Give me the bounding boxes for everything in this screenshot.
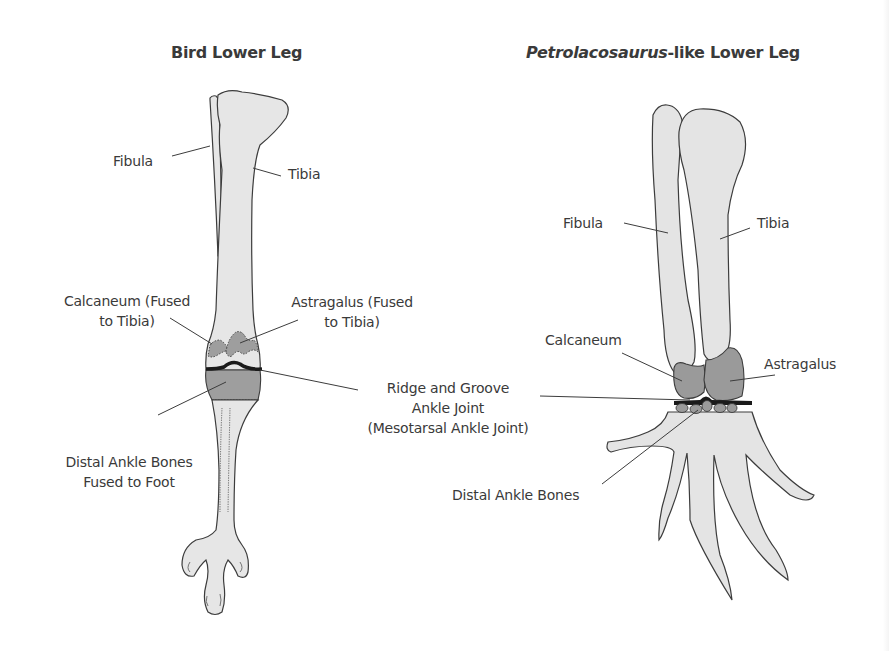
bird-calcaneum-label-line2: to Tibia) xyxy=(52,311,202,331)
petrolacosaurus-leg-illustration xyxy=(607,105,814,600)
bird-astragalus-label-line1: Astragalus (Fused xyxy=(277,292,427,312)
bird-calcaneum-label-line1: Calcaneum (Fused xyxy=(52,291,202,311)
bird-astragalus-label: Astragalus (Fused to Tibia) xyxy=(277,292,427,332)
bird-calcaneum-label: Calcaneum (Fused to Tibia) xyxy=(52,291,202,331)
bird-distal-label-line2: Fused to Foot xyxy=(54,472,204,492)
joint-label-line3: (Mesotarsal Ankle Joint) xyxy=(353,418,543,438)
bird-astragalus-label-line2: to Tibia) xyxy=(277,312,427,332)
petrolacosaurus-panel-title: Petrolacosaurus-like Lower Leg xyxy=(526,43,800,62)
joint-label-line2: Ankle Joint xyxy=(353,398,543,418)
bird-panel-title: Bird Lower Leg xyxy=(171,43,302,62)
ridge-groove-joint-label: Ridge and Groove Ankle Joint (Mesotarsal… xyxy=(353,378,543,438)
petrolacosaurus-title-italic: Petrolacosaurus xyxy=(526,43,667,62)
petro-fibula-label: Fibula xyxy=(563,213,603,233)
petro-distal-label: Distal Ankle Bones xyxy=(452,485,579,505)
petrolacosaurus-title-rest: -like Lower Leg xyxy=(667,43,800,62)
petro-tibia-label: Tibia xyxy=(757,213,789,233)
bird-distal-label-line1: Distal Ankle Bones xyxy=(54,452,204,472)
bird-fibula-label: Fibula xyxy=(113,151,153,171)
bird-leg-illustration xyxy=(182,91,288,615)
petro-foot xyxy=(607,412,814,600)
bird-tibia-label: Tibia xyxy=(288,164,320,184)
joint-label-line1: Ridge and Groove xyxy=(353,378,543,398)
bird-distal-ankle-bones xyxy=(206,370,261,400)
petro-calcaneum-label: Calcaneum xyxy=(545,330,622,350)
page-edge xyxy=(883,0,889,651)
bird-distal-label: Distal Ankle Bones Fused to Foot xyxy=(54,452,204,492)
petro-calcaneum xyxy=(674,363,705,399)
petro-astragalus-label: Astragalus xyxy=(764,354,836,374)
